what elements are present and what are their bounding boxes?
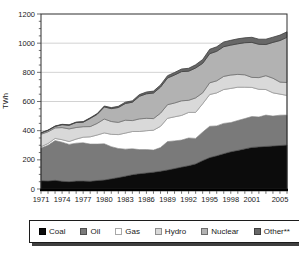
x-tick-label: 1992: [180, 195, 197, 204]
nuclear-swatch: [201, 228, 208, 235]
x-tick-label: 1986: [138, 195, 155, 204]
x-tick-label: 1989: [159, 195, 176, 204]
x-tick-label: 1971: [33, 195, 50, 204]
legend: Coal Oil Gas Hydro Nuclear Other**: [29, 220, 299, 243]
y-tick-label: 400: [22, 126, 35, 135]
electricity-generation-by-fuel-figure: 0200400600800100012001971197419771980198…: [0, 0, 299, 258]
legend-label-other: Other**: [264, 228, 290, 236]
legend-item-coal: Coal: [39, 228, 65, 236]
x-tick-label: 1983: [117, 195, 134, 204]
x-tick-label: 1998: [222, 195, 239, 204]
x-tick-label: 1974: [54, 195, 71, 204]
legend-item-gas: Gas: [115, 228, 140, 236]
legend-item-other: Other**: [254, 228, 290, 236]
legend-label-hydro: Hydro: [165, 228, 186, 236]
legend-item-hydro: Hydro: [155, 228, 186, 236]
legend-item-nuclear: Nuclear: [201, 228, 239, 236]
y-tick-label: 600: [22, 97, 35, 106]
oil-swatch: [80, 228, 87, 235]
legend-label-nuclear: Nuclear: [211, 228, 239, 236]
stacked-area-chart: 0200400600800100012001971197419771980198…: [0, 0, 299, 216]
x-tick-label: 1977: [75, 195, 92, 204]
y-tick-label: 0: [31, 185, 35, 194]
x-tick-label: 2001: [244, 195, 261, 204]
y-axis-title: TWh: [1, 93, 10, 109]
y-tick-label: 1200: [18, 10, 35, 19]
y-tick-label: 800: [22, 68, 35, 77]
legend-label-gas: Gas: [125, 228, 140, 236]
y-tick-label: 200: [22, 155, 35, 164]
legend-label-oil: Oil: [90, 228, 100, 236]
x-tick-label: 2005: [272, 195, 289, 204]
legend-item-oil: Oil: [80, 228, 100, 236]
x-tick-label: 1980: [96, 195, 113, 204]
other-swatch: [254, 228, 261, 235]
x-tick-label: 1995: [201, 195, 218, 204]
y-tick-label: 1000: [18, 39, 35, 48]
coal-swatch: [39, 228, 46, 235]
legend-label-coal: Coal: [49, 228, 65, 236]
gas-swatch: [115, 228, 122, 235]
hydro-swatch: [155, 228, 162, 235]
